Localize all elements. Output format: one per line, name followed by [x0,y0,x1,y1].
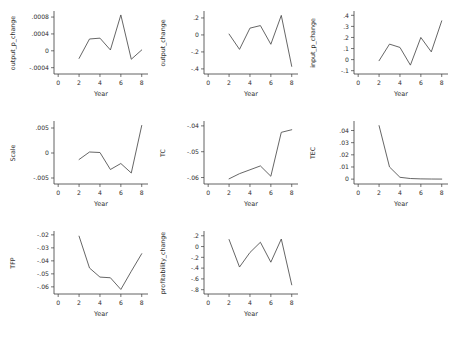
x-tick-label: 8 [290,79,294,86]
data-series-line [379,21,442,65]
data-series-line [379,126,442,179]
x-tick-label: 2 [77,299,81,306]
y-axis-title: TEC [309,146,316,160]
panel-tec: 0.01.02.03.0402468TECYear [306,112,456,222]
x-tick-label: 2 [227,299,231,306]
x-tick-label: 6 [269,79,273,86]
y-tick-label: -.05 [37,270,49,277]
y-tick-label: 0 [195,31,199,38]
x-tick-label: 4 [98,79,102,86]
y-tick-label: -.04 [187,122,199,129]
panel-output-p-change: -.00040.0004.000802468output_p_changeYea… [6,2,156,112]
y-tick-label: .0008 [32,13,50,20]
x-tick-label: 4 [248,299,252,306]
x-tick-label: 4 [98,189,102,196]
y-tick-label: 0 [45,47,49,54]
y-tick-label: .3 [343,23,349,30]
y-tick-label: .0004 [32,30,50,37]
y-tick-label: .02 [339,151,349,158]
x-tick-label: 8 [290,299,294,306]
x-tick-label: 0 [206,79,210,86]
data-series-line [229,130,292,179]
y-axis-title: profitability_change [159,232,167,294]
x-tick-label: 6 [119,79,123,86]
x-tick-label: 6 [119,189,123,196]
y-tick-label: -.005 [33,174,49,181]
x-tick-label: 4 [398,189,402,196]
x-tick-label: 2 [77,189,81,196]
panel-tc: -.06-.05-.0402468TCYear [156,112,306,222]
panel-tfp: -.06-.05-.04-.03-.0202468TFPYear [6,222,156,332]
x-tick-label: 6 [269,189,273,196]
x-tick-label: 6 [419,189,423,196]
y-tick-label: -.04 [37,257,49,264]
y-tick-label: -.4 [191,264,199,271]
x-tick-label: 0 [356,189,360,196]
x-tick-label: 8 [440,79,444,86]
y-axis-title: TFP [9,257,16,269]
y-axis-title: Scale [9,144,16,161]
x-axis-title: Year [243,200,258,208]
x-axis-title: Year [393,200,408,208]
x-tick-label: 0 [206,299,210,306]
x-tick-label: 2 [227,189,231,196]
panel-input-p-change: -.10.1.2.3.402468input_p_changeYear [306,2,456,112]
y-tick-label: -.2 [191,254,199,261]
x-axis-title: Year [243,310,258,318]
data-series-line [79,15,142,59]
y-tick-label: .2 [343,34,349,41]
y-axis-title: output_p_change [9,16,17,70]
data-series-line [79,236,142,289]
y-tick-label: -.02 [37,231,49,238]
panel-profitability-change: -.8-.6-.4-.20.202468profitability_change… [156,222,306,332]
x-tick-label: 4 [98,299,102,306]
y-tick-label: 0 [345,56,349,63]
x-tick-label: 2 [377,79,381,86]
y-tick-label: .04 [339,127,349,134]
y-tick-label: .005 [35,124,49,131]
x-tick-label: 0 [356,79,360,86]
x-tick-label: 2 [227,79,231,86]
y-axis-title: input_p_change [309,18,317,68]
x-tick-label: 6 [419,79,423,86]
x-tick-label: 0 [56,79,60,86]
panel-scale: -.0050.00502468ScaleYear [6,112,156,222]
x-tick-label: 2 [77,79,81,86]
y-axis-title: output_change [159,19,167,66]
y-tick-label: -.03 [37,244,49,251]
x-tick-label: 8 [140,79,144,86]
x-tick-label: 8 [140,299,144,306]
y-tick-label: .2 [193,14,199,21]
x-axis-title: Year [93,310,108,318]
x-tick-label: 6 [119,299,123,306]
x-tick-label: 0 [56,299,60,306]
y-tick-label: -.06 [37,283,49,290]
x-tick-label: 8 [440,189,444,196]
x-axis-title: Year [93,90,108,98]
data-series-line [229,15,292,66]
y-tick-label: .2 [193,232,199,239]
data-series-line [229,239,292,285]
y-tick-label: .03 [339,139,349,146]
x-axis-title: Year [243,90,258,98]
y-axis-title: TC [159,148,166,157]
y-tick-label: .1 [343,45,349,52]
y-tick-label: -.8 [191,286,199,293]
x-tick-label: 4 [248,189,252,196]
x-tick-label: 4 [398,79,402,86]
y-tick-label: 0 [195,243,199,250]
panel-output-change: -.4-.20.202468output_changeYear [156,2,306,112]
x-tick-label: 0 [56,189,60,196]
x-tick-label: 0 [206,189,210,196]
x-tick-label: 8 [290,189,294,196]
y-tick-label: -.6 [191,275,199,282]
data-series-line [79,126,142,174]
y-tick-label: -.1 [341,67,349,74]
x-axis-title: Year [93,200,108,208]
y-tick-label: 0 [345,175,349,182]
y-tick-label: -.06 [187,174,199,181]
y-tick-label: -.0004 [29,64,49,71]
y-tick-label: .4 [343,12,349,19]
x-axis-title: Year [393,90,408,98]
y-tick-label: -.2 [191,48,199,55]
